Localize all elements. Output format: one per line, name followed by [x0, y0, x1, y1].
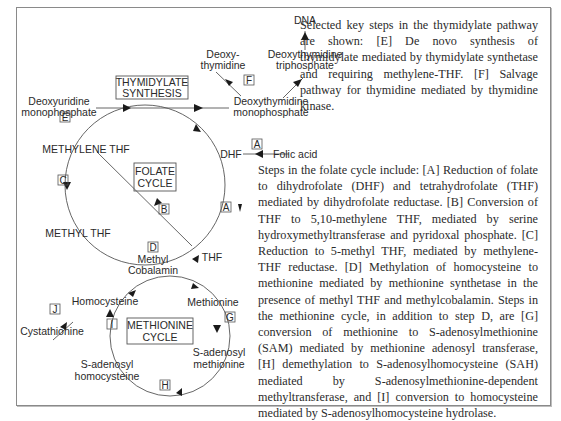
- step-c-label: C: [59, 175, 66, 186]
- caption-thymidylate-pathway: Selected key steps in the thymidylate pa…: [300, 17, 538, 114]
- node-cystathionine: Cystathionine: [20, 325, 84, 337]
- folic-acid-arrow: [255, 150, 263, 158]
- node-sah-2: homocysteine: [75, 370, 140, 382]
- node-dhf: DHF: [220, 148, 242, 160]
- folate-title-1: FOLATE: [135, 165, 175, 177]
- step-g-label: G: [226, 312, 234, 323]
- step-a1-label: A: [254, 139, 261, 150]
- node-sah-1: S-adenosyl: [81, 358, 134, 370]
- thymidylate-title-2: SYNTHESIS: [122, 87, 182, 99]
- step-j-label: J: [53, 304, 58, 315]
- step-d-label: D: [149, 242, 156, 253]
- node-methyl-thf: METHYL THF: [45, 227, 110, 239]
- folate-title-2: CYCLE: [137, 177, 172, 189]
- node-homocysteine: Homocysteine: [72, 295, 139, 307]
- step-a2-label: A: [223, 202, 230, 213]
- node-methionine: Methionine: [187, 296, 239, 308]
- node-dump-2: monophosphate: [21, 106, 96, 118]
- methionine-title-2: CYCLE: [142, 331, 177, 343]
- node-folic-acid: Folic acid: [273, 148, 318, 160]
- salvage-arrow: [225, 79, 233, 86]
- node-methyl-cobalamin-2: Cobalamin: [128, 264, 178, 276]
- node-deoxythymidine-2: thymidine: [201, 59, 246, 71]
- step-b-label: B: [161, 204, 168, 215]
- caption-folate-methionine: Steps in the folate cycle include: [A] R…: [258, 162, 538, 421]
- methionine-title-1: METHIONINE: [127, 319, 193, 331]
- node-thf: THF: [202, 251, 222, 263]
- node-dtmp-2: monophosphate: [233, 106, 308, 118]
- node-methylene-thf: METHYLENE THF: [42, 143, 129, 155]
- node-sam-1: S-adenosyl: [193, 346, 246, 358]
- node-sam-2: methionine: [193, 358, 245, 370]
- step-h-label: H: [161, 380, 168, 391]
- step-f-label: F: [246, 75, 252, 86]
- step-i-label: I: [111, 319, 114, 330]
